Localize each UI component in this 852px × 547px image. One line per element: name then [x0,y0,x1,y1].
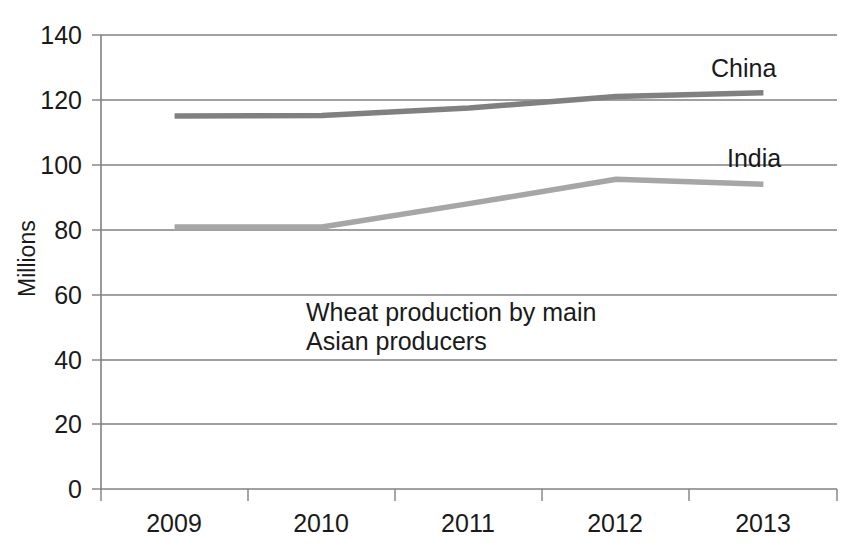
chart-container: 140 120 100 80 60 40 20 0 2009 2010 2011… [0,0,852,547]
x-tick-label-2009: 2009 [114,511,234,536]
chart-plot-area [0,0,852,547]
y-tick-label-120: 120 [20,88,82,113]
series-label-china: China [711,56,776,81]
x-tick-label-2012: 2012 [555,511,675,536]
series-line-india [175,179,764,227]
series-line-china [175,93,764,116]
y-axis-line [92,35,101,489]
x-tick-label-2011: 2011 [408,511,528,536]
x-tick-label-2013: 2013 [703,511,823,536]
y-tick-label-20: 20 [20,412,82,437]
x-tick-label-2010: 2010 [261,511,381,536]
y-tick-label-140: 140 [20,23,82,48]
series-label-india: India [727,146,781,171]
y-tick-label-0: 0 [20,477,82,502]
chart-annotation: Wheat production by main Asian producers [306,298,596,356]
x-axis-line [101,489,837,501]
y-tick-label-100: 100 [20,153,82,178]
y-axis-title: Millions [16,220,39,297]
y-tick-label-40: 40 [20,348,82,373]
